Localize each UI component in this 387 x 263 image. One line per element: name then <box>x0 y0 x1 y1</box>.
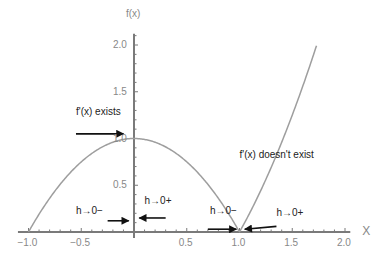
plot-area <box>0 0 387 263</box>
x-tick-label: 2.0 <box>337 237 351 248</box>
y-tick-label: 0.5 <box>113 179 127 190</box>
annotation-text: h→0+ <box>276 207 303 218</box>
x-tick-label: 0.5 <box>179 237 193 248</box>
function-curve <box>29 46 317 232</box>
annotation-text: h→0− <box>210 205 237 216</box>
y-tick-label: 1.0 <box>113 133 127 144</box>
x-tick-label: −0.5 <box>70 237 90 248</box>
annotation-text: h→0+ <box>145 195 172 206</box>
x-tick-label: −1.0 <box>18 237 38 248</box>
annotation-text: f'(x) doesn't exist <box>240 149 314 160</box>
x-axis-label: X <box>362 224 370 238</box>
x-tick-label: 1.5 <box>284 237 298 248</box>
x-tick-label: 1.0 <box>232 237 246 248</box>
annotation-text: h→0− <box>76 205 103 216</box>
annotation-arrow-left <box>245 226 277 229</box>
y-tick-label: 1.5 <box>113 86 127 97</box>
y-tick-label: 2.0 <box>113 39 127 50</box>
y-axis-label: f(x) <box>126 8 140 19</box>
annotation-text: f'(x) exists <box>76 106 121 117</box>
